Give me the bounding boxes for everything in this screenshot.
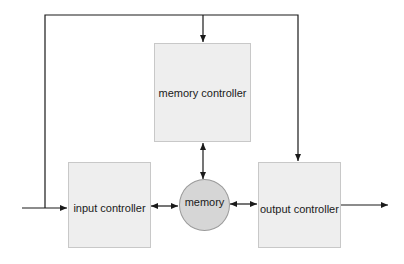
output-controller-label: output controller [260,203,339,215]
memory-node: memory [179,179,230,231]
memory-controller-node: memory controller [154,43,251,142]
input-controller-node: input controller [68,162,151,248]
input-controller-label: input controller [73,202,145,214]
memory-label: memory [185,196,225,208]
memory-controller-label: memory controller [158,87,246,99]
output-controller-node: output controller [258,162,341,248]
